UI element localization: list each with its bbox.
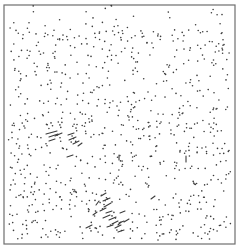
dot	[85, 38, 87, 40]
dot	[189, 143, 191, 145]
dot	[85, 191, 87, 193]
dot	[138, 138, 140, 140]
dot	[102, 22, 104, 24]
dot	[189, 199, 191, 201]
dot	[124, 80, 126, 82]
dot	[57, 39, 59, 41]
dot	[27, 144, 29, 146]
dot	[132, 70, 134, 72]
dot	[197, 236, 199, 238]
dot	[43, 164, 45, 166]
dot	[74, 205, 76, 207]
dot	[78, 35, 80, 37]
dot	[95, 37, 97, 39]
dot	[185, 210, 187, 212]
dot	[104, 62, 106, 64]
dot	[219, 153, 221, 155]
dot	[113, 212, 115, 214]
dot	[166, 80, 168, 82]
stimulus-frame	[4, 5, 235, 244]
dot	[120, 37, 122, 39]
dot	[202, 54, 204, 56]
dot	[15, 173, 17, 175]
dot	[137, 61, 139, 63]
dot	[17, 138, 19, 140]
dot	[197, 208, 199, 210]
dot	[212, 142, 214, 144]
dot	[159, 39, 161, 41]
dot	[46, 145, 48, 147]
dot	[151, 42, 153, 44]
dot	[74, 189, 76, 191]
dot	[49, 79, 51, 81]
dot	[61, 82, 63, 84]
dot	[157, 35, 159, 37]
dot	[148, 122, 150, 124]
dot	[60, 140, 62, 142]
dot	[164, 96, 166, 98]
dot	[149, 125, 151, 127]
dot	[85, 122, 87, 124]
dot	[88, 64, 90, 66]
dot	[23, 125, 25, 127]
dot	[179, 229, 181, 231]
dot	[163, 71, 165, 73]
dot	[84, 126, 86, 128]
dot	[77, 73, 79, 75]
dipole-segment	[69, 137, 76, 140]
dot	[157, 239, 159, 241]
dot	[85, 23, 87, 25]
dot	[170, 133, 172, 135]
dot	[164, 73, 166, 75]
dipole-segment	[120, 211, 125, 213]
dot	[23, 197, 25, 199]
dot	[203, 131, 205, 133]
dot	[225, 227, 227, 229]
dot	[28, 22, 30, 24]
dot	[14, 70, 16, 72]
dot	[218, 99, 220, 101]
dot	[217, 179, 219, 181]
dot	[117, 63, 119, 65]
dot	[120, 182, 122, 184]
dot	[200, 208, 202, 210]
dot	[192, 181, 194, 183]
dot	[219, 23, 221, 25]
dot	[112, 30, 114, 32]
dot	[74, 47, 76, 49]
dot	[71, 193, 73, 195]
dot	[43, 102, 45, 104]
dot	[109, 107, 111, 109]
dot	[160, 121, 162, 123]
dot	[225, 178, 227, 180]
dot	[213, 229, 215, 231]
dot	[45, 220, 47, 222]
dot	[102, 148, 104, 150]
dot	[82, 113, 84, 115]
dot	[134, 35, 136, 37]
dot	[23, 168, 25, 170]
dot	[20, 73, 22, 75]
dot	[22, 38, 24, 40]
dot	[30, 155, 32, 157]
dot	[86, 73, 88, 75]
dot	[215, 63, 217, 65]
dot	[132, 116, 134, 118]
dot	[144, 215, 146, 217]
dot	[126, 140, 128, 142]
dot	[93, 89, 95, 91]
dot	[206, 151, 208, 153]
dot	[198, 80, 200, 82]
dot	[83, 92, 85, 94]
dot	[109, 84, 111, 86]
dot	[228, 52, 230, 54]
dot	[64, 230, 66, 232]
dot	[99, 32, 101, 34]
dot	[27, 165, 29, 167]
dot	[59, 124, 61, 126]
dot	[112, 130, 114, 132]
dot	[119, 198, 121, 200]
dot	[14, 68, 16, 70]
dot	[222, 45, 224, 47]
dot	[210, 216, 212, 218]
